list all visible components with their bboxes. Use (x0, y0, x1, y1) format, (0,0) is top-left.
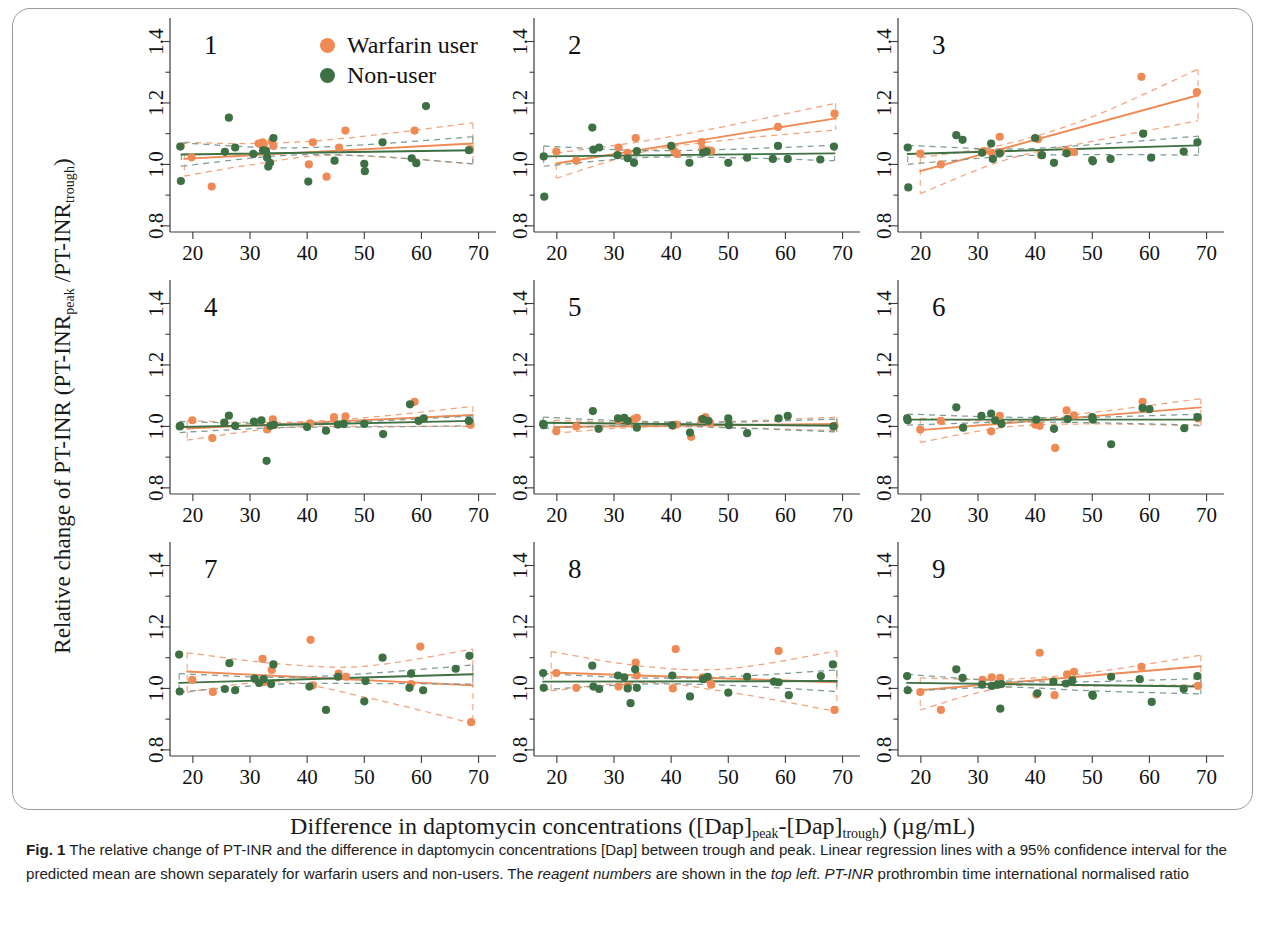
data-point-nonuser (407, 670, 415, 678)
data-point-nonuser (360, 160, 368, 168)
y-tick-label: 0.8 (144, 737, 168, 763)
x-tick-label: 50 (1082, 765, 1103, 789)
data-point-nonuser (1064, 415, 1072, 423)
data-point-nonuser (667, 142, 675, 150)
x-tick-label: 20 (182, 765, 203, 789)
data-point-warfarin (1194, 682, 1202, 690)
data-point-nonuser (340, 420, 348, 428)
data-point-warfarin (305, 160, 313, 168)
y-tick-label: 1.2 (508, 614, 532, 640)
data-point-nonuser (903, 672, 911, 680)
data-point-nonuser (1089, 692, 1097, 700)
x-tick-label: 50 (354, 503, 375, 527)
panel-number-label: 8 (568, 556, 582, 583)
data-point-nonuser (303, 423, 311, 431)
ci-lower-warfarin (920, 121, 1198, 194)
y-tick-label: 1.4 (508, 28, 532, 55)
y-tick-label: 0.8 (144, 213, 168, 239)
data-point-nonuser (784, 155, 792, 163)
data-point-warfarin (258, 655, 266, 663)
data-point-nonuser (176, 422, 184, 430)
data-point-nonuser (540, 193, 548, 201)
data-point-warfarin (572, 422, 580, 430)
data-point-nonuser (231, 686, 239, 694)
data-point-nonuser (465, 652, 473, 660)
data-point-nonuser (1106, 155, 1114, 163)
data-point-warfarin (269, 142, 277, 150)
x-tick-label: 50 (718, 503, 739, 527)
data-point-nonuser (405, 684, 413, 692)
data-point-nonuser (1145, 405, 1153, 413)
data-point-nonuser (422, 102, 430, 110)
data-point-nonuser (175, 651, 183, 659)
data-point-warfarin (632, 134, 640, 142)
data-point-nonuser (249, 150, 257, 158)
data-point-nonuser (1033, 689, 1041, 697)
data-point-warfarin (1062, 406, 1070, 414)
data-point-nonuser (743, 429, 751, 437)
data-point-nonuser (322, 427, 330, 435)
y-tick-label: 1.2 (872, 352, 896, 378)
data-point-warfarin (572, 157, 580, 165)
panel-number-label: 1 (204, 32, 218, 59)
data-point-nonuser (702, 147, 710, 155)
legend-marker-icon (320, 68, 335, 83)
ci-lower-warfarin (184, 155, 473, 176)
y-tick-label: 0.8 (872, 213, 896, 239)
x-tick-label: 70 (832, 765, 853, 789)
data-point-nonuser (1068, 676, 1076, 684)
data-point-nonuser (1032, 416, 1040, 424)
data-point-nonuser (452, 665, 460, 673)
data-point-nonuser (1107, 673, 1115, 681)
data-point-warfarin (987, 427, 995, 435)
x-tick-label: 40 (297, 503, 318, 527)
data-point-nonuser (420, 414, 428, 422)
panel-number-label: 7 (204, 556, 218, 583)
data-point-warfarin (707, 681, 715, 689)
data-point-warfarin (1193, 88, 1201, 96)
data-point-nonuser (412, 159, 420, 167)
ci-lower-nonuser (543, 684, 837, 692)
data-point-nonuser (594, 425, 602, 433)
panel-number-label: 5 (568, 294, 582, 321)
y-tick-label: 1.0 (872, 413, 896, 439)
data-point-nonuser (904, 183, 912, 191)
figure-caption: Fig. 1 The relative change of PT-INR and… (26, 838, 1238, 885)
data-point-nonuser (361, 167, 369, 175)
data-point-warfarin (322, 173, 330, 181)
data-point-nonuser (958, 136, 966, 144)
data-point-nonuser (620, 673, 628, 681)
data-point-nonuser (830, 142, 838, 150)
ci-upper-nonuser (544, 145, 835, 150)
panel-5: 50.81.01.21.4203040506070 (496, 276, 868, 534)
y-tick-label: 1.0 (508, 675, 532, 701)
data-point-nonuser (305, 682, 313, 690)
data-point-warfarin (614, 682, 622, 690)
data-point-nonuser (1193, 413, 1201, 421)
y-tick-label: 1.0 (872, 675, 896, 701)
data-point-nonuser (952, 665, 960, 673)
data-point-warfarin (672, 645, 680, 653)
x-tick-label: 70 (468, 503, 489, 527)
data-point-nonuser (1193, 138, 1201, 146)
data-point-nonuser (1062, 149, 1070, 157)
y-tick-label: 1.2 (144, 90, 168, 116)
regression-line-nonuser (544, 153, 835, 156)
data-point-nonuser (378, 654, 386, 662)
data-point-warfarin (774, 647, 782, 655)
data-point-warfarin (342, 673, 350, 681)
legend-marker-icon (320, 38, 335, 53)
data-point-nonuser (704, 673, 712, 681)
data-point-warfarin (633, 414, 641, 422)
x-tick-label: 50 (1082, 241, 1103, 265)
x-tick-label: 20 (546, 765, 567, 789)
y-tick-label: 1.4 (872, 552, 896, 579)
data-point-nonuser (322, 706, 330, 714)
x-tick-label: 40 (297, 765, 318, 789)
data-point-nonuser (829, 660, 837, 668)
data-point-nonuser (624, 684, 632, 692)
data-point-nonuser (774, 678, 782, 686)
regression-line-nonuser (543, 681, 837, 682)
data-point-nonuser (996, 705, 1004, 713)
regression-line-nonuser (908, 145, 1199, 154)
